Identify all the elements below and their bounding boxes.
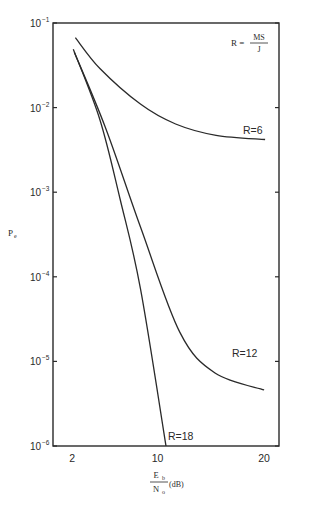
annotation-lhs: R = [231,38,244,48]
ratio-annotation: R = MS J [231,33,268,54]
curve-label: R=12 [232,347,258,359]
y-tick-label-exponent: −1 [42,16,50,23]
x-tick-label: 2 [69,452,75,464]
curve-labels: R=6R=12R=18 [168,124,263,442]
x-tick-label: 20 [258,452,270,464]
y-tick-label-exponent: −6 [42,439,50,446]
x-label-denominator-sub: o [162,489,165,495]
curve-label: R=6 [243,124,263,136]
y-axis-label: P e [8,228,17,239]
x-axis-tick-labels: 21020 [69,452,270,464]
y-axis-tick-labels: 10−110−210−310−410−510−6 [30,16,50,452]
annotation-denominator: J [257,45,260,54]
x-label-numerator-sub: b [162,475,165,481]
curve-r-12 [74,52,264,390]
plot-frame [53,23,279,446]
y-tick-label-exponent: −4 [42,270,50,277]
data-curves [73,38,265,446]
y-tick-label: 10 [30,356,42,367]
x-label-denominator: N [153,484,159,494]
y-tick-label: 10 [30,187,42,198]
y-label-sub: e [14,233,17,239]
y-tick-label: 10 [30,272,42,283]
y-tick-label: 10 [30,103,42,114]
y-tick-label-exponent: −2 [42,101,50,108]
x-label-numerator: E [153,470,158,480]
y-label-main: P [8,228,13,238]
y-axis-ticks [53,23,279,446]
y-tick-label: 10 [30,441,42,452]
x-axis-label: E b N o (dB) [150,470,184,495]
curve-label: R=18 [168,430,194,442]
x-tick-label: 10 [152,452,164,464]
y-tick-label-exponent: −3 [42,185,50,192]
x-label-unit: (dB) [169,480,184,489]
chart: 10−110−210−310−410−510−6 21020 R=6R=12R=… [0,0,309,514]
curve-r-18 [73,49,166,446]
y-tick-label: 10 [30,18,42,29]
annotation-numerator: MS [253,33,265,42]
y-tick-label-exponent: −5 [42,354,50,361]
